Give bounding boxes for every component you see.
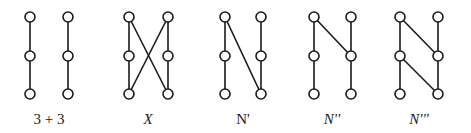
node — [220, 12, 230, 22]
diagram-canvas: 3 + 3 X N' N'' N''' — [0, 0, 471, 133]
edge — [400, 56, 438, 94]
figure-label-3-plus-3: 3 + 3 — [19, 110, 79, 128]
node — [124, 12, 134, 22]
figure-label-n-prime: N' — [213, 110, 273, 128]
node — [25, 51, 35, 61]
node — [395, 12, 405, 22]
edge — [314, 17, 351, 56]
figure-Npp — [309, 12, 356, 99]
node — [163, 89, 173, 99]
node — [63, 89, 73, 99]
node — [309, 12, 319, 22]
figure-X — [124, 12, 173, 99]
node — [433, 89, 443, 99]
node — [163, 12, 173, 22]
node — [395, 51, 405, 61]
node — [63, 12, 73, 22]
node — [256, 51, 266, 61]
node — [163, 51, 173, 61]
figure-Np — [220, 12, 266, 99]
figure-label-x: X — [118, 110, 178, 128]
node — [256, 89, 266, 99]
node — [346, 12, 356, 22]
node — [346, 51, 356, 61]
node — [433, 51, 443, 61]
node — [346, 89, 356, 99]
node — [124, 51, 134, 61]
node — [309, 89, 319, 99]
figure-label-n-double-prime: N'' — [302, 110, 362, 128]
node — [25, 89, 35, 99]
node — [433, 12, 443, 22]
node — [63, 51, 73, 61]
node — [220, 89, 230, 99]
node — [124, 89, 134, 99]
node — [220, 51, 230, 61]
node — [395, 89, 405, 99]
figure-Nppp — [395, 12, 443, 99]
node — [25, 12, 35, 22]
figure-3plus3 — [25, 12, 73, 99]
node — [309, 51, 319, 61]
node — [256, 12, 266, 22]
figure-label-n-triple-prime: N''' — [389, 110, 449, 128]
edge — [400, 17, 438, 56]
